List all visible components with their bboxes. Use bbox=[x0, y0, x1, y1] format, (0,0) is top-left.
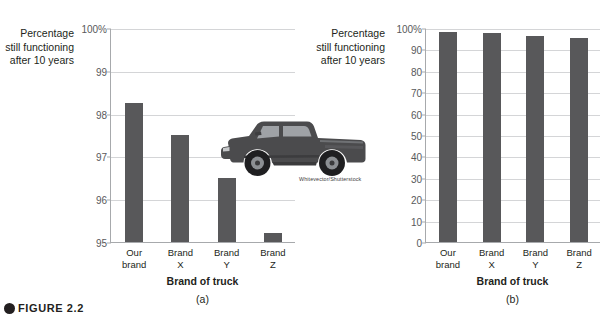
y-axis-tick-label: 30 bbox=[411, 173, 422, 184]
chart-b-y-axis-title: Percentage still functioning after 10 ye… bbox=[316, 27, 385, 68]
chart-panel-b: Percentage still functioning after 10 ye… bbox=[305, 0, 610, 312]
y-axis-tick-mark bbox=[422, 136, 426, 137]
x-axis-tick-label: BrandY bbox=[523, 247, 548, 271]
y-axis-tick-mark bbox=[107, 29, 111, 30]
bar bbox=[171, 135, 189, 242]
y-axis-tick-label: 40 bbox=[411, 152, 422, 163]
bar bbox=[264, 233, 282, 242]
chart-a-y-axis-title: Percentage still functioning after 10 ye… bbox=[5, 27, 74, 68]
y-axis-tick-mark bbox=[422, 114, 426, 115]
y-axis-tick-mark bbox=[422, 71, 426, 72]
caption-bullet-icon bbox=[4, 303, 15, 314]
y-axis-tick-mark bbox=[107, 114, 111, 115]
y-axis-tick-label: 95 bbox=[96, 238, 107, 249]
y-axis-tick-label: 96 bbox=[96, 195, 107, 206]
y-axis-tick-mark bbox=[422, 50, 426, 51]
y-axis-tick-label: 70 bbox=[411, 88, 422, 99]
x-axis-tick-label: Ourbrand bbox=[122, 247, 146, 271]
y-axis-tick-label: 90 bbox=[411, 45, 422, 56]
figure-caption: FIGURE 2.2 bbox=[4, 300, 84, 316]
y-axis-tick-mark bbox=[107, 200, 111, 201]
y-axis-tick-mark bbox=[422, 157, 426, 158]
x-axis-tick-label: BrandZ bbox=[260, 247, 285, 271]
x-axis-tick-label: Ourbrand bbox=[436, 247, 460, 271]
y-axis-tick-label: 60 bbox=[411, 109, 422, 120]
bar bbox=[439, 32, 457, 242]
y-axis-tick-mark bbox=[422, 178, 426, 179]
bar bbox=[526, 36, 544, 243]
y-axis-tick-mark bbox=[422, 243, 426, 244]
y-axis-tick-label: 10 bbox=[411, 216, 422, 227]
y-axis-tick-label: 98 bbox=[96, 109, 107, 120]
y-axis-tick-label: 50 bbox=[411, 131, 422, 142]
y-axis-tick-label: 99 bbox=[96, 66, 107, 77]
y-axis-tick-mark bbox=[422, 221, 426, 222]
x-axis-tick-label: BrandX bbox=[168, 247, 193, 271]
bar bbox=[483, 33, 501, 242]
x-axis-tick-label: BrandY bbox=[214, 247, 239, 271]
chart-b-panel-label: (b) bbox=[360, 293, 610, 305]
y-axis-tick-label: 97 bbox=[96, 152, 107, 163]
y-axis-tick-mark bbox=[422, 93, 426, 94]
gridline bbox=[111, 72, 295, 73]
gridline bbox=[426, 29, 600, 30]
y-axis-tick-label: 20 bbox=[411, 195, 422, 206]
x-axis-tick-label: BrandX bbox=[479, 247, 504, 271]
y-axis-tick-label: 100% bbox=[396, 24, 422, 35]
bar bbox=[125, 103, 143, 242]
y-axis-tick-mark bbox=[107, 243, 111, 244]
y-axis-tick-mark bbox=[107, 71, 111, 72]
y-axis-tick-label: 80 bbox=[411, 66, 422, 77]
bar bbox=[570, 38, 588, 242]
chart-b-plot-area: 0102030405060708090100%OurbrandBrandXBra… bbox=[425, 29, 600, 243]
x-axis-tick-label: BrandZ bbox=[566, 247, 591, 271]
y-axis-tick-mark bbox=[422, 29, 426, 30]
y-axis-tick-label: 100% bbox=[81, 24, 107, 35]
figure-caption-label: FIGURE 2.2 bbox=[18, 302, 84, 314]
bar bbox=[218, 178, 236, 242]
y-axis-tick-mark bbox=[422, 200, 426, 201]
chart-b-x-axis-title: Brand of truck bbox=[360, 275, 610, 287]
gridline bbox=[111, 29, 295, 30]
y-axis-tick-mark bbox=[107, 157, 111, 158]
chart-panel-a: Percentage still functioning after 10 ye… bbox=[0, 0, 305, 312]
